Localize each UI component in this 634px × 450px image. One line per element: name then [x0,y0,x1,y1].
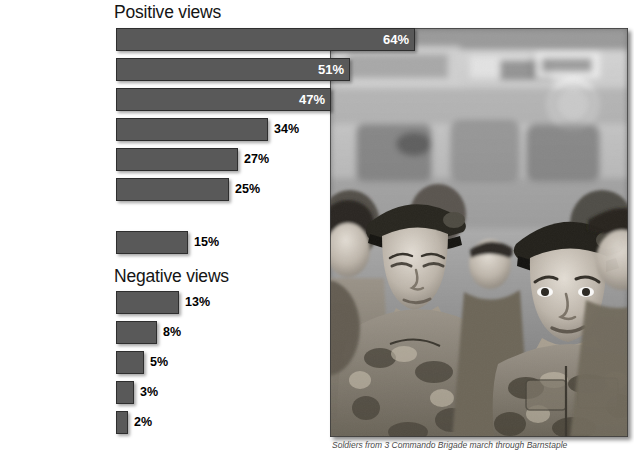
bar-value-label: 2% [134,411,152,434]
bar [116,231,188,254]
bar [116,118,268,141]
bar-value-label: 15% [194,231,219,254]
bar-value-label: 51% [310,58,344,81]
bar [116,321,157,344]
soldiers-photograph [330,28,628,437]
bar [116,291,179,314]
bar [116,28,415,51]
bar-value-label: 47% [291,88,325,111]
bar-value-label: 25% [235,178,260,201]
bar-value-label: 34% [274,118,299,141]
bar [116,351,144,374]
bar-value-label: 13% [185,291,210,314]
bar [116,178,229,201]
bar-value-label: 5% [150,351,168,374]
bar [116,148,238,171]
photo-svg [330,28,628,437]
photo-caption: Soldiers from 3 Commando Brigade march t… [332,440,632,450]
bar [116,411,128,434]
bar [116,381,134,404]
bar-value-label: 3% [140,381,158,404]
bar-chart-figure: Positive views Negative views Supportive… [0,0,634,450]
bar-value-label: 64% [375,28,409,51]
negative-views-title: Negative views [114,266,229,287]
bar-value-label: 27% [244,148,269,171]
bar-value-label: 8% [163,321,181,344]
positive-views-title: Positive views [114,2,221,23]
